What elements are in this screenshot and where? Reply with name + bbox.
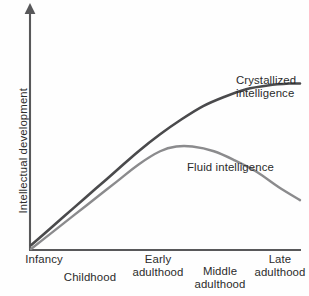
- y-axis-label: Intellectual development: [17, 61, 30, 241]
- x-axis-tick-early-line1: Early: [145, 253, 172, 265]
- chart-plot-area: [0, 0, 309, 296]
- x-axis-tick-childhood: Childhood: [52, 271, 128, 284]
- series-label-fluid-intelligence: Fluid intelligence: [187, 161, 274, 174]
- series-label-crystallized-line1: Crystallized: [236, 74, 296, 86]
- x-axis-tick-early-line2: adulthood: [132, 266, 183, 278]
- intellectual-development-chart: Intellectual development Crystallizedint…: [0, 0, 309, 296]
- series-label-crystallized-line2: intelligence: [236, 87, 294, 99]
- series-label-crystallized-intelligence: Crystallizedintelligence: [236, 74, 296, 101]
- x-axis-tick-infancy: Infancy: [14, 253, 74, 266]
- x-axis-tick-late-adulthood: Lateadulthood: [244, 253, 309, 280]
- x-axis-tick-middle-line1: Middle: [203, 265, 237, 277]
- x-axis-tick-late-line2: adulthood: [254, 266, 305, 278]
- x-axis-tick-late-line1: Late: [269, 253, 292, 265]
- y-axis-arrow-icon: [25, 3, 36, 14]
- x-axis-tick-middle-line2: adulthood: [194, 278, 245, 290]
